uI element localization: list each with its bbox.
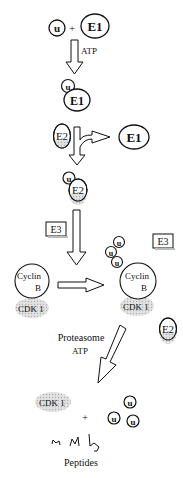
- svg-text:E1: E1: [70, 94, 84, 108]
- svg-text:u: u: [117, 239, 122, 248]
- arrow-right-icon: [58, 278, 104, 292]
- e2-enzyme-1: E2: [54, 124, 71, 148]
- svg-text:E2: E2: [72, 184, 84, 196]
- svg-text:E3: E3: [50, 224, 61, 235]
- svg-text:E2: E2: [56, 130, 68, 142]
- e2-enzyme-released: E2: [160, 318, 177, 344]
- svg-text:u: u: [54, 22, 60, 34]
- arrow-down-icon: [67, 210, 86, 265]
- free-ubiquitin-group: u u u: [108, 396, 139, 427]
- svg-text:E1: E1: [87, 19, 102, 34]
- svg-text:u: u: [65, 82, 70, 92]
- ubiquitin-e1-complex: u E1: [62, 80, 91, 112]
- peptide-fragments-icon: [52, 434, 99, 451]
- svg-text:CDK 1: CDK 1: [18, 304, 44, 314]
- svg-text:u: u: [109, 249, 114, 258]
- ubiquitin-e2-complex: u E2: [63, 172, 87, 205]
- svg-text:E3: E3: [157, 236, 168, 247]
- peptides-label: Peptides: [64, 457, 98, 468]
- proteasome-label: Proteasome: [58, 332, 105, 343]
- svg-text:E1: E1: [126, 130, 141, 145]
- svg-text:Cyclin: Cyclin: [17, 271, 41, 281]
- svg-text:CDK 1: CDK 1: [39, 398, 65, 408]
- ubiquitin-1: u: [49, 20, 65, 36]
- svg-text:B: B: [141, 283, 147, 293]
- svg-text:u: u: [66, 174, 71, 184]
- svg-text:E2: E2: [162, 323, 174, 335]
- svg-text:u: u: [111, 414, 116, 424]
- cyclin-b-cdk1-complex: CDK 1 Cyclin B: [15, 264, 49, 318]
- atp-label-2: ATP: [72, 346, 88, 356]
- ubiquitination-diagram: u + E1 ATP u E1 E2 E1 u E2 E3: [0, 0, 183, 478]
- svg-text:CDK 1: CDK 1: [123, 302, 149, 312]
- cdk1-product: CDK 1: [35, 392, 71, 412]
- svg-text:Cyclin: Cyclin: [125, 271, 149, 281]
- svg-text:u: u: [127, 398, 132, 408]
- svg-text:u: u: [115, 259, 120, 268]
- svg-text:B: B: [35, 283, 41, 293]
- e3-ligase-released: E3: [153, 234, 175, 250]
- plus-sign-2: +: [82, 412, 88, 423]
- e1-released: E1: [119, 125, 149, 149]
- e1-enzyme: E1: [81, 14, 109, 38]
- atp-label-1: ATP: [81, 46, 97, 56]
- branch-arrow-icon: [69, 127, 110, 165]
- e3-ligase-box: E3: [46, 222, 68, 238]
- svg-text:u: u: [130, 417, 135, 427]
- plus-sign: +: [69, 22, 75, 34]
- polyubiquitinated-cyclin-b-cdk1: CDK 1 Cyclin B u u u: [106, 237, 157, 317]
